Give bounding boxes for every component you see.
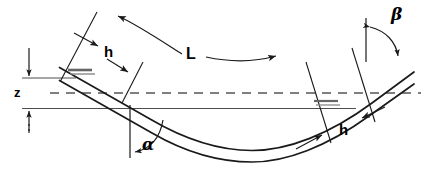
h-left-extension-line-b: [122, 62, 143, 103]
technical-diagram: h h L z α β: [0, 0, 427, 170]
h-left-dimension: [61, 12, 144, 103]
beta-arc: [370, 27, 398, 56]
label-angle-alpha: α: [142, 137, 154, 153]
diagram-canvas: [0, 0, 427, 170]
span-arrow-right: [206, 56, 276, 61]
label-span-L: L: [186, 46, 196, 62]
label-depth-z: z: [14, 86, 21, 99]
h-right-extension-line-b: [352, 48, 375, 122]
h-left-arrow-upper: [74, 33, 98, 46]
conduit-walls: [60, 68, 415, 163]
span-L-dimension: [118, 16, 276, 61]
label-h-left: h: [104, 44, 113, 59]
span-arrow-left: [118, 16, 182, 54]
label-h-right: h: [339, 122, 348, 137]
label-angle-beta: β: [391, 6, 402, 23]
h-right-extension-line-a: [306, 62, 331, 143]
beta-angle: [366, 18, 398, 62]
h-left-arrow-lower: [107, 59, 128, 72]
